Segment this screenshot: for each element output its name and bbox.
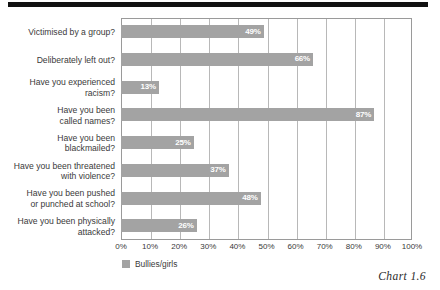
- x-tick-label: 50%: [258, 242, 274, 251]
- bar-row: 13%: [121, 74, 412, 102]
- category-label: Have you been pushed or punched at schoo…: [0, 188, 115, 209]
- x-tick-label: 10%: [142, 242, 158, 251]
- bar-row: 25%: [121, 129, 412, 157]
- bar-row: 66%: [121, 46, 412, 74]
- bar-row: 48%: [121, 185, 412, 213]
- bar: 48%: [121, 192, 261, 205]
- bar: 13%: [121, 81, 159, 94]
- legend-label: Bullies/girls: [135, 259, 177, 269]
- x-tick-label: 70%: [317, 242, 333, 251]
- x-axis-tick-labels: 0%10%20%30%40%50%60%70%80%90%100%: [121, 242, 412, 256]
- x-tick-label: 100%: [402, 242, 422, 251]
- category-label: Deliberately left out?: [0, 54, 115, 65]
- category-label: Have you been physically attacked?: [0, 216, 115, 237]
- x-tick-label: 0%: [115, 242, 127, 251]
- chart-figure: Victimised by a group?Deliberately left …: [0, 0, 440, 290]
- bar-value-label: 48%: [242, 194, 257, 202]
- x-tick-label: 80%: [346, 242, 362, 251]
- bar-value-label: 66%: [295, 55, 310, 63]
- x-tick-label: 40%: [229, 242, 245, 251]
- bar: 49%: [121, 25, 264, 38]
- category-label: Victimised by a group?: [0, 27, 115, 38]
- chart-caption: Chart 1.6: [378, 270, 426, 282]
- bar: 66%: [121, 53, 313, 66]
- x-tick-label: 60%: [288, 242, 304, 251]
- category-label: Have you been blackmailed?: [0, 132, 115, 153]
- bar-value-label: 25%: [175, 139, 190, 147]
- category-label: Have you been threatened with violence?: [0, 160, 115, 181]
- x-tick-label: 30%: [200, 242, 216, 251]
- bar: 26%: [121, 219, 197, 232]
- bar-value-label: 37%: [210, 166, 225, 174]
- bar: 87%: [121, 108, 374, 121]
- bar: 25%: [121, 136, 194, 149]
- x-tick-label: 90%: [375, 242, 391, 251]
- bar-value-label: 87%: [356, 111, 371, 119]
- x-tick-label: 20%: [171, 242, 187, 251]
- category-label: Have you been called names?: [0, 105, 115, 126]
- bar-row: 26%: [121, 212, 412, 240]
- legend-swatch-icon: [122, 260, 130, 268]
- bar-value-label: 13%: [140, 83, 155, 91]
- chart-legend: Bullies/girls: [122, 259, 177, 269]
- bar-value-label: 26%: [178, 222, 193, 230]
- bar-row: 87%: [121, 101, 412, 129]
- bar: 37%: [121, 164, 229, 177]
- bar-row: 37%: [121, 157, 412, 185]
- category-label: Have you experienced racism?: [0, 77, 115, 98]
- bar-row: 49%: [121, 18, 412, 46]
- bar-value-label: 49%: [245, 28, 260, 36]
